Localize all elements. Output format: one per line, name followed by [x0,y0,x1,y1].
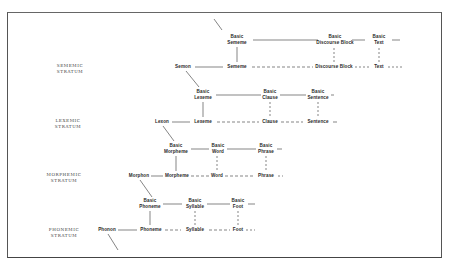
node-line: Foot [232,204,245,210]
node-foot: Foot [233,227,243,233]
node-basic-discourse-block: Basic Discourse Block [316,34,354,46]
node-line: Lexeme [194,95,212,101]
stratum-label-line: STRATUM [57,69,84,75]
node-basic-foot: Basic Foot [232,198,245,210]
node-lexon: Lexon [155,119,169,125]
node-phrase: Phrase [258,173,274,179]
node-sememe: Sememe [227,64,247,70]
node-basic-lexeme: Basic Lexeme [194,89,212,101]
node-line: Word [212,149,225,155]
node-morphon: Morphon [129,173,149,179]
node-phoneme: Phoneme [140,227,161,233]
stratum-label-lexemic: LEXEMIC STRATUM [55,118,81,129]
node-word: Word [211,173,223,179]
node-basic-clause: Basic Clause [262,89,278,101]
stratum-label-line: STRATUM [55,124,81,130]
node-basic-text: Basic Text [373,34,386,46]
stratum-label-line: MORPHEMIC [47,172,82,178]
node-discourse-block: Discourse Block [315,64,353,70]
stratum-label-morphemic: MORPHEMIC STRATUM [47,172,82,183]
node-line: Discourse Block [316,40,354,46]
node-sentence: Sentence [307,119,328,125]
node-text: Text [374,64,384,70]
node-clause: Clause [262,119,278,125]
node-basic-morpheme: Basic Morpheme [164,143,188,155]
stratum-label-sememic: SEMEMIC STRATUM [57,63,84,74]
node-line: Sentence [307,95,328,101]
node-line: Text [373,40,386,46]
node-basic-sentence: Basic Sentence [307,89,328,101]
node-lexeme: Lexeme [194,119,212,125]
stratum-label-phonemic: PHONEMIC STRATUM [49,227,80,238]
stratum-label-line: SEMEMIC [57,63,84,69]
stratum-label-line: LEXEMIC [55,118,81,124]
node-line: Syllable [186,204,204,210]
node-morpheme: Morpheme [165,173,189,179]
node-basic-syllable: Basic Syllable [186,198,204,210]
node-line: Morpheme [164,149,188,155]
node-line: Phrase [258,149,274,155]
node-basic-word: Basic Word [212,143,225,155]
stratum-label-line: PHONEMIC [49,227,80,233]
node-semon: Semon [175,64,191,70]
stratum-label-line: STRATUM [49,233,80,239]
node-basic-phoneme: Basic Phoneme [139,198,160,210]
node-phonon: Phonon [98,227,116,233]
node-basic-phrase: Basic Phrase [258,143,274,155]
node-line: Clause [262,95,278,101]
node-line: Sememe [227,40,247,46]
node-basic-sememe: Basic Sememe [227,34,247,46]
stratum-label-line: STRATUM [47,178,82,184]
node-line: Phoneme [139,204,160,210]
node-syllable: Syllable [186,227,204,233]
